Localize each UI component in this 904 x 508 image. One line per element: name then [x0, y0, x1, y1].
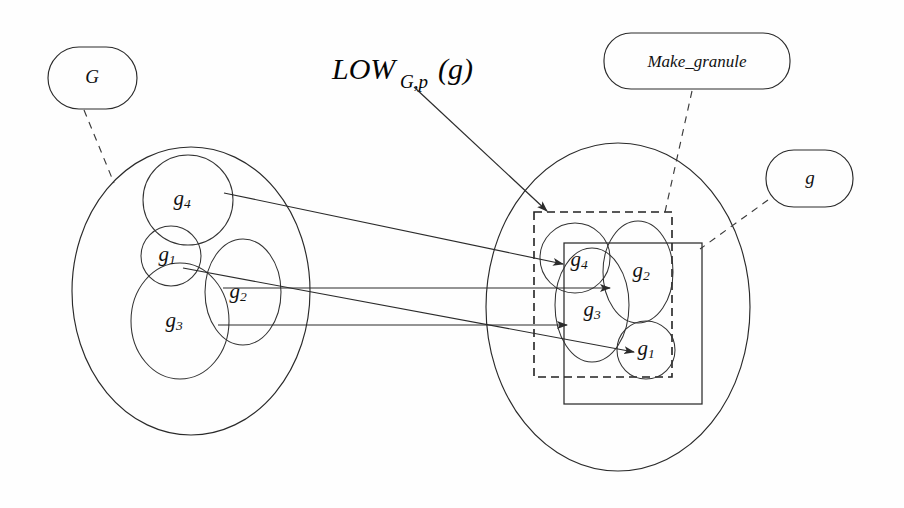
left-granule-g1-label: g1 — [158, 242, 175, 267]
left-granule-g3-subscript: 3 — [175, 318, 183, 333]
label-make-granule-text: Make_granule — [646, 52, 747, 71]
label-G-group[interactable]: G — [48, 47, 137, 183]
right-granule-g3-label: g3 — [583, 297, 601, 322]
label-low-argument-text: (g) — [438, 52, 473, 86]
right-universe-ellipse — [486, 143, 750, 471]
left-granule-g4-subscript: 4 — [184, 196, 191, 211]
left-granule-g2-label: g2 — [229, 279, 247, 304]
right-granule-g2-subscript: 2 — [643, 268, 650, 283]
label-make-granule-group[interactable]: Make_granule — [604, 33, 790, 212]
right-granule-g3-subscript: 3 — [593, 307, 601, 322]
left-universe-ellipse — [72, 147, 310, 435]
label-G-text: G — [85, 66, 99, 87]
left-granule-g2-subscript: 2 — [240, 289, 247, 304]
connector-G-dashed — [84, 110, 114, 183]
connector-g-dashed — [700, 200, 768, 249]
label-low-operator-group: LOW G,p (g) — [331, 52, 547, 211]
label-low-subscript-text: G,p — [400, 71, 428, 92]
left-granule-g4-label: g4 — [173, 186, 191, 211]
label-g-group[interactable]: g — [700, 150, 853, 249]
right-granule-g4-subscript: 4 — [581, 257, 588, 272]
mapping-arrow-g4 — [224, 193, 563, 264]
right-granule-g4-label: g4 — [570, 247, 588, 272]
right-granule-g2-label: g2 — [632, 258, 650, 283]
right-granule-g1-label: g1 — [637, 336, 654, 361]
right-granule-g1-subscript: 1 — [648, 346, 655, 361]
label-low-main-text: LOW — [331, 52, 398, 85]
left-granule-g1-subscript: 1 — [169, 252, 176, 267]
mapping-arrow-g1 — [183, 268, 634, 352]
left-granule-g3-label: g3 — [165, 308, 183, 333]
diagram-canvas: g4 g1 g3 g2 g4 g2 g3 g1 — [0, 0, 904, 508]
connector-make-granule-dashed — [665, 91, 692, 212]
pointer-low-arrow — [414, 87, 547, 211]
left-universe-group: g4 g1 g3 g2 — [72, 147, 310, 435]
label-g-text: g — [805, 167, 815, 188]
mapping-arrows-group — [183, 193, 634, 352]
right-universe-group: g4 g2 g3 g1 — [486, 143, 750, 471]
granule-mapping-diagram: g4 g1 g3 g2 g4 g2 g3 g1 — [0, 0, 904, 508]
